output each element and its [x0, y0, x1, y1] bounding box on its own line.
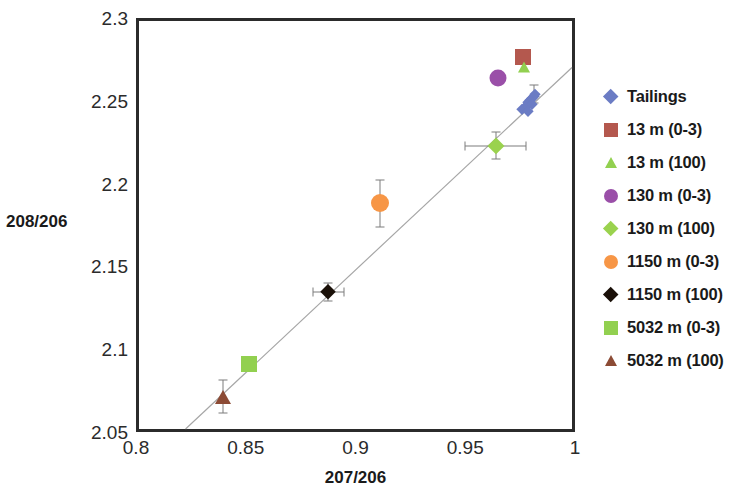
diamond-marker — [603, 88, 619, 104]
error-bar-cap — [376, 180, 385, 181]
error-bar-cap — [218, 413, 227, 414]
data-point — [490, 139, 502, 151]
plot-inner — [139, 21, 572, 429]
x-axis-label: 207/206 — [136, 468, 575, 488]
y-tick-label: 2.15 — [91, 257, 128, 276]
y-tick-label: 2.2 — [102, 174, 128, 193]
data-point — [215, 390, 231, 404]
triangle-marker — [605, 355, 617, 366]
error-bar-cap — [343, 288, 344, 297]
legend-label: 13 m (0-3) — [627, 120, 702, 139]
legend-label: 5032 m (0-3) — [627, 318, 720, 337]
legend-item[interactable]: 1150 m (0-3) — [600, 245, 736, 278]
data-point — [518, 62, 530, 73]
x-tick-label: 0.8 — [123, 438, 149, 457]
y-tick-label: 2.25 — [91, 91, 128, 110]
legend-item[interactable]: 5032 m (0-3) — [600, 311, 736, 344]
y-tick-label: 2.1 — [102, 340, 128, 359]
chart-legend: Tailings13 m (0-3)13 m (100)130 m (0-3)1… — [600, 80, 736, 377]
legend-label: 5032 m (100) — [627, 351, 724, 370]
triangle-marker — [605, 157, 617, 168]
data-point — [323, 287, 334, 298]
diamond-marker — [487, 137, 504, 154]
legend-marker-triangle-icon — [600, 350, 622, 372]
error-bar-cap — [526, 141, 527, 150]
square-marker — [604, 123, 618, 137]
legend-label: Tailings — [627, 87, 687, 106]
legend-label: 13 m (100) — [627, 153, 706, 172]
square-marker — [241, 356, 257, 372]
circle-marker — [371, 194, 389, 212]
error-bar-cap — [218, 380, 227, 381]
legend-label: 1150 m (0-3) — [627, 252, 719, 271]
legend-marker-triangle-icon — [600, 152, 622, 174]
legend-item[interactable]: 130 m (100) — [600, 212, 736, 245]
legend-marker-circle-icon — [600, 251, 622, 273]
circle-marker — [489, 70, 506, 87]
data-point — [489, 70, 506, 87]
error-bar-cap — [491, 131, 500, 132]
legend-item[interactable]: 130 m (0-3) — [600, 179, 736, 212]
error-bar-cap — [491, 159, 500, 160]
legend-item[interactable]: 13 m (0-3) — [600, 113, 736, 146]
data-point — [241, 356, 257, 372]
legend-item[interactable]: 1150 m (100) — [600, 278, 736, 311]
plot-area — [136, 18, 575, 432]
error-bar-cap — [376, 226, 385, 227]
data-point — [371, 194, 389, 212]
legend-marker-diamond-icon — [600, 218, 622, 240]
error-bar-cap — [530, 84, 539, 85]
diamond-marker — [522, 106, 533, 117]
legend-item[interactable]: Tailings — [600, 80, 736, 113]
legend-label: 130 m (100) — [627, 219, 715, 238]
square-marker — [604, 321, 618, 335]
diamond-marker — [603, 220, 619, 236]
error-bar-cap — [324, 301, 333, 302]
triangle-marker — [518, 62, 530, 73]
data-point — [524, 107, 532, 115]
legend-label: 1150 m (100) — [627, 285, 723, 304]
x-axis-ticks: 0.80.850.90.951 — [136, 438, 575, 468]
legend-item[interactable]: 13 m (100) — [600, 146, 736, 179]
x-tick-label: 0.95 — [447, 438, 484, 457]
y-axis-label: 208/206 — [6, 212, 67, 232]
legend-marker-diamond-icon — [600, 86, 622, 108]
data-point — [532, 90, 540, 98]
y-tick-label: 2.3 — [102, 9, 128, 28]
x-tick-label: 0.85 — [227, 438, 264, 457]
error-bar-cap — [312, 288, 313, 297]
trendline — [139, 21, 572, 429]
triangle-marker — [215, 390, 231, 404]
legend-item[interactable]: 5032 m (100) — [600, 344, 736, 377]
circle-marker — [604, 189, 618, 203]
legend-marker-square-icon — [600, 317, 622, 339]
legend-marker-circle-icon — [600, 185, 622, 207]
x-tick-label: 1 — [570, 438, 581, 457]
x-tick-label: 0.9 — [342, 438, 368, 457]
legend-label: 130 m (0-3) — [627, 186, 711, 205]
diamond-marker — [603, 286, 619, 302]
scatter-chart: 2.052.12.152.22.252.3 208/206 0.80.850.9… — [0, 0, 736, 497]
diamond-marker — [320, 284, 336, 300]
error-bar-cap — [464, 141, 465, 150]
circle-marker — [604, 255, 618, 269]
legend-marker-square-icon — [600, 119, 622, 141]
legend-marker-diamond-icon — [600, 284, 622, 306]
